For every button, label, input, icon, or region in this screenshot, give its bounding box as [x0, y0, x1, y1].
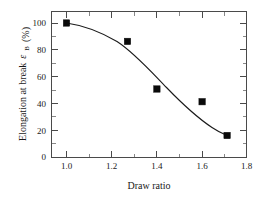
- y-axis-title-units: (%): [20, 27, 32, 42]
- data-fit-curve: [67, 23, 228, 136]
- y-tick-label: 80: [37, 45, 47, 55]
- y-tick-label: 20: [37, 126, 47, 136]
- data-point: [154, 86, 160, 92]
- y-axis-title-main: Elongation at break: [17, 63, 28, 141]
- x-axis-tick-labels: 1.0 1.2 1.4 1.6 1.8: [61, 161, 253, 171]
- y-tick-label: 0: [42, 152, 47, 162]
- x-axis-minor-ticks: [89, 12, 224, 157]
- x-axis-major-ticks: [67, 12, 247, 157]
- x-tick-label: 1.8: [241, 161, 253, 171]
- x-tick-label: 1.4: [151, 161, 163, 171]
- data-point: [224, 132, 230, 138]
- y-axis-tick-labels: 0 20 40 60 80 100: [33, 18, 47, 162]
- y-axis-minor-ticks: [52, 36, 246, 143]
- chart-figure: 1.0 1.2 1.4 1.6 1.8 0 20 40 60 80 100 Dr…: [0, 0, 268, 203]
- y-tick-label: 60: [37, 72, 47, 82]
- plot-frame: [52, 12, 247, 158]
- data-point: [124, 38, 130, 44]
- y-tick-label: 100: [33, 18, 47, 28]
- y-axis-title: Elongation at break ε B (%): [12, 27, 32, 141]
- svg-text:Elongation at break: Elongation at break ε B (%): [12, 27, 32, 141]
- data-point: [199, 99, 205, 105]
- data-point: [63, 20, 69, 26]
- x-axis-title: Draw ratio: [127, 180, 170, 191]
- y-axis-title-symbol: ε: [17, 55, 28, 59]
- x-tick-label: 1.0: [61, 161, 73, 171]
- x-tick-label: 1.6: [196, 161, 208, 171]
- y-axis-title-subscript: B: [23, 46, 31, 51]
- y-tick-label: 40: [37, 99, 47, 109]
- chart-plot-area: 1.0 1.2 1.4 1.6 1.8 0 20 40 60 80 100 Dr…: [0, 0, 268, 203]
- x-tick-label: 1.2: [106, 161, 117, 171]
- data-point-markers: [63, 20, 230, 139]
- y-axis-major-ticks: [52, 23, 246, 157]
